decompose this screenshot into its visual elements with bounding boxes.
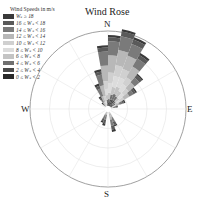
legend-swatch xyxy=(3,41,14,46)
legend-swatch xyxy=(3,14,14,19)
legend-swatch xyxy=(3,21,14,26)
legend-label: 10 ≤ Wₛ < 12 xyxy=(16,40,45,46)
legend-label: 6 ≤ Wₛ < 8 xyxy=(16,53,40,59)
legend-item: 16 ≤ Wₛ < 18 xyxy=(3,20,83,27)
direction-label-w: W xyxy=(21,104,30,114)
legend-swatch xyxy=(3,61,14,66)
legend-swatch xyxy=(3,34,14,39)
legend-label: 12 ≤ Wₛ < 14 xyxy=(16,33,45,39)
legend-item: 8 ≤ Wₛ < 10 xyxy=(3,46,83,53)
legend-item: 14 ≤ Wₛ < 16 xyxy=(3,26,83,33)
direction-label-n: N xyxy=(104,19,111,29)
legend-label: 16 ≤ Wₛ < 18 xyxy=(16,20,45,26)
legend-label: 14 ≤ Wₛ < 16 xyxy=(16,27,45,33)
direction-label-e: E xyxy=(187,104,193,114)
legend: Wind Speeds in m/s Wₛ ≥ 1816 ≤ Wₛ < 1814… xyxy=(3,6,83,80)
legend-item: 12 ≤ Wₛ < 14 xyxy=(3,33,83,40)
legend-item: 10 ≤ Wₛ < 12 xyxy=(3,40,83,47)
legend-item: 2 ≤ Wₛ < 4 xyxy=(3,67,83,74)
grid-spoke xyxy=(40,109,108,148)
chart-title: Wind Rose xyxy=(85,6,129,17)
legend-label: Wₛ ≥ 18 xyxy=(16,13,34,19)
legend-swatch xyxy=(3,74,14,79)
legend-item: 0 ≤ Wₛ < 2 xyxy=(3,73,83,80)
legend-label: 4 ≤ Wₛ < 6 xyxy=(16,60,40,66)
center-hole xyxy=(105,106,111,112)
legend-label: 8 ≤ Wₛ < 10 xyxy=(16,47,43,53)
rose-wedge xyxy=(98,51,108,66)
legend-swatch xyxy=(3,48,14,53)
legend-item: 4 ≤ Wₛ < 6 xyxy=(3,60,83,67)
legend-item: Wₛ ≥ 18 xyxy=(3,13,83,20)
legend-title: Wind Speeds in m/s xyxy=(10,6,83,12)
legend-swatch xyxy=(3,68,14,73)
direction-label-s: S xyxy=(104,189,109,199)
legend-label: 2 ≤ Wₛ < 4 xyxy=(16,67,40,73)
legend-item: 6 ≤ Wₛ < 8 xyxy=(3,53,83,60)
legend-swatch xyxy=(3,27,14,32)
grid-spoke xyxy=(108,109,176,148)
legend-swatch xyxy=(3,54,14,59)
legend-label: 0 ≤ Wₛ < 2 xyxy=(16,74,40,80)
